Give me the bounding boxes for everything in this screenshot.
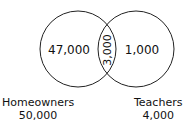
- teachers-only-value: 1,000: [125, 43, 159, 57]
- homeowners-total: 50,000: [2, 109, 74, 122]
- teachers-name: Teachers: [134, 96, 182, 109]
- teachers-label: Teachers 4,000: [134, 96, 182, 122]
- homeowners-label: Homeowners 50,000: [2, 96, 74, 122]
- homeowners-name: Homeowners: [2, 96, 74, 109]
- intersection-value: 3,000: [101, 34, 114, 66]
- homeowners-only-value: 47,000: [48, 43, 90, 57]
- teachers-total: 4,000: [134, 109, 182, 122]
